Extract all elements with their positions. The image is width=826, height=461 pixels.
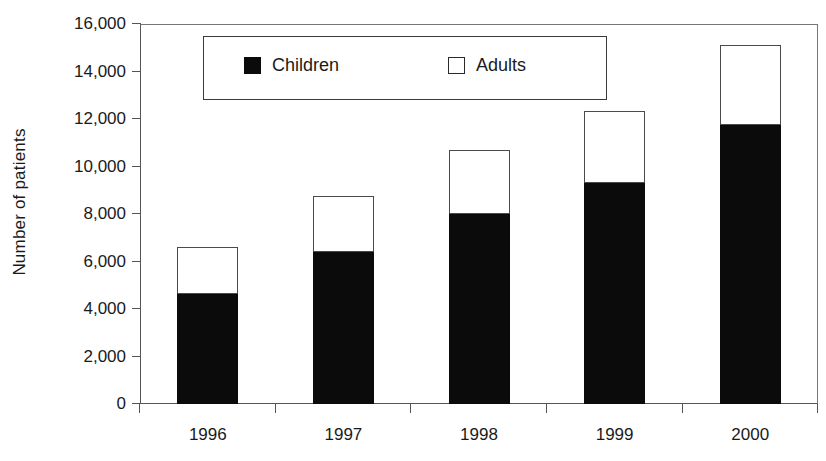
y-axis-title: Number of patients — [0, 0, 40, 404]
bar-segment-adults — [449, 150, 510, 214]
x-axis-tick — [682, 404, 683, 413]
y-axis-tick-label: 0 — [46, 395, 126, 412]
y-axis-tick-label: 14,000 — [46, 63, 126, 80]
x-axis-tick — [410, 404, 411, 413]
x-axis-tick — [546, 404, 547, 413]
y-axis-tick-label: 12,000 — [46, 110, 126, 127]
y-axis-tick-label: 6,000 — [46, 253, 126, 270]
x-axis-tick-label: 2000 — [690, 425, 810, 444]
legend-label-adults: Adults — [476, 56, 526, 74]
bar-segment-adults — [177, 247, 238, 293]
bar-segment-children — [177, 294, 238, 404]
x-axis-tick — [817, 404, 818, 413]
bar-segment-adults — [720, 45, 781, 125]
bar-segment-adults — [584, 111, 645, 183]
x-axis-tick — [275, 404, 276, 413]
legend-swatch-children-icon — [244, 57, 261, 74]
x-axis-tick-label: 1996 — [148, 425, 268, 444]
x-axis-tick-label: 1999 — [555, 425, 675, 444]
legend-item-children: Children — [244, 56, 339, 74]
y-axis-tick-label: 8,000 — [46, 205, 126, 222]
x-axis-tick — [139, 404, 140, 413]
y-axis-title-text: Number of patients — [10, 128, 30, 275]
bar-segment-children — [720, 125, 781, 404]
legend-item-adults: Adults — [448, 56, 526, 74]
y-axis-tick-label: 16,000 — [46, 15, 126, 32]
legend-label-children: Children — [272, 56, 339, 74]
x-axis-tick-label: 1998 — [419, 425, 539, 444]
bar-segment-children — [449, 214, 510, 404]
legend: Children Adults — [203, 36, 607, 100]
stacked-bar-chart: Number of patients 02,0004,0006,0008,000… — [0, 0, 826, 461]
bar-segment-children — [313, 252, 374, 404]
bar-segment-children — [584, 183, 645, 404]
bar-segment-adults — [313, 196, 374, 252]
y-axis-tick-label: 2,000 — [46, 348, 126, 365]
bar-group — [720, 24, 781, 404]
y-axis-tick-label: 4,000 — [46, 300, 126, 317]
x-axis-tick-label: 1997 — [283, 425, 403, 444]
legend-swatch-adults-icon — [448, 57, 465, 74]
y-axis-tick-label: 10,000 — [46, 158, 126, 175]
